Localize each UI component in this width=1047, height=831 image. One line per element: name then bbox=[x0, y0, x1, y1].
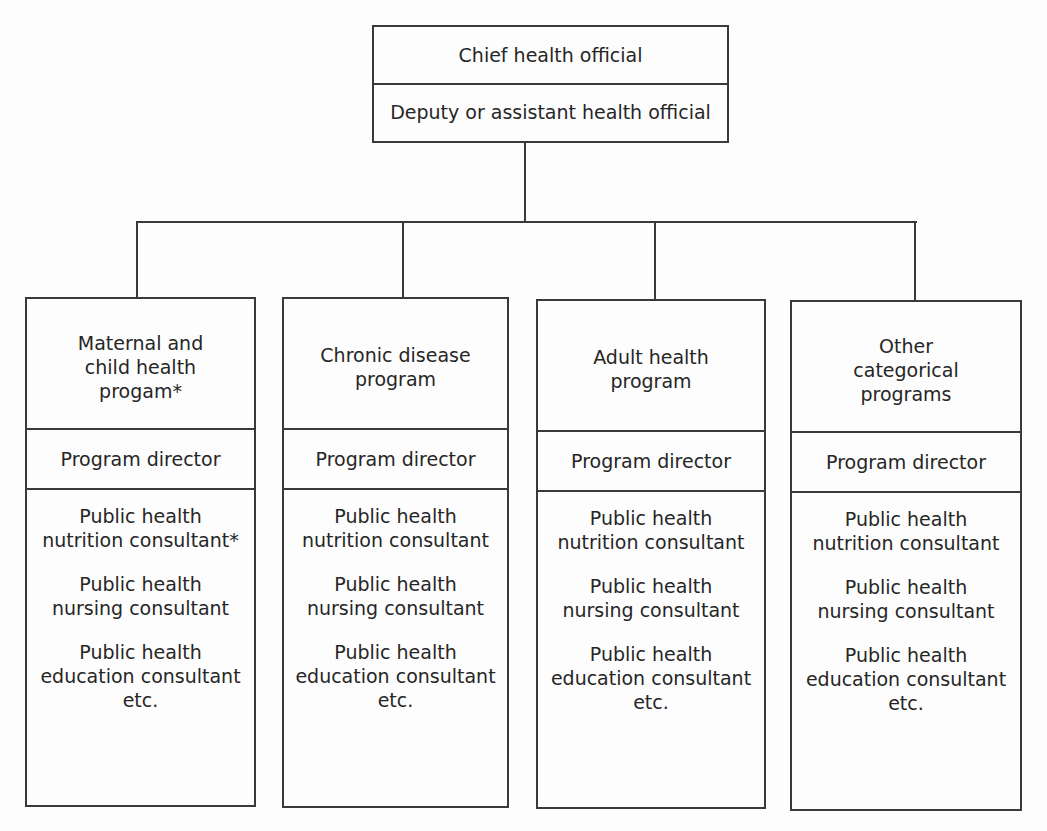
deputy-health-official: Deputy or assistant health official bbox=[374, 83, 727, 139]
nursing-consultant: Public healthnursing consultant bbox=[52, 572, 229, 620]
connector-col4 bbox=[914, 221, 916, 301]
connector-trunk bbox=[524, 142, 526, 223]
nursing-consultant: Public healthnursing consultant bbox=[307, 572, 484, 620]
staff-list: Public healthnutrition consultant Public… bbox=[538, 492, 764, 734]
staff-list: Public healthnutrition consultant* Publi… bbox=[27, 490, 254, 732]
nursing-consultant: Public healthnursing consultant bbox=[817, 575, 994, 623]
program-director: Program director bbox=[284, 430, 507, 490]
program-box-maternal-child: Maternal and child health progam* Progra… bbox=[25, 297, 256, 807]
program-director: Program director bbox=[792, 433, 1020, 493]
nutrition-consultant: Public healthnutrition consultant bbox=[302, 504, 489, 552]
program-title: Other categorical programs bbox=[792, 302, 1020, 433]
staff-list: Public healthnutrition consultant Public… bbox=[284, 490, 507, 732]
chief-health-official: Chief health official bbox=[374, 27, 727, 83]
program-director: Program director bbox=[538, 432, 764, 492]
staff-list: Public healthnutrition consultant Public… bbox=[792, 493, 1020, 735]
top-official-box: Chief health official Deputy or assistan… bbox=[372, 25, 729, 143]
nutrition-consultant: Public healthnutrition consultant bbox=[813, 507, 1000, 555]
program-director: Program director bbox=[27, 430, 254, 490]
program-box-other-categorical: Other categorical programs Program direc… bbox=[790, 300, 1022, 811]
connector-col3 bbox=[654, 221, 656, 300]
connector-bar bbox=[136, 221, 917, 223]
program-box-chronic-disease: Chronic disease program Program director… bbox=[282, 297, 509, 808]
education-consultant: Public healtheducation consultantetc. bbox=[806, 643, 1006, 715]
program-title: Maternal and child health progam* bbox=[27, 299, 254, 430]
nutrition-consultant: Public healthnutrition consultant* bbox=[42, 504, 238, 552]
education-consultant: Public healtheducation consultantetc. bbox=[551, 642, 751, 714]
program-title: Chronic disease program bbox=[284, 299, 507, 430]
education-consultant: Public healtheducation consultantetc. bbox=[40, 640, 240, 712]
connector-col2 bbox=[402, 221, 404, 298]
nutrition-consultant: Public healthnutrition consultant bbox=[558, 506, 745, 554]
nursing-consultant: Public healthnursing consultant bbox=[562, 574, 739, 622]
program-box-adult-health: Adult health program Program director Pu… bbox=[536, 299, 766, 809]
connector-col1 bbox=[136, 221, 138, 298]
education-consultant: Public healtheducation consultantetc. bbox=[295, 640, 495, 712]
program-title: Adult health program bbox=[538, 301, 764, 432]
